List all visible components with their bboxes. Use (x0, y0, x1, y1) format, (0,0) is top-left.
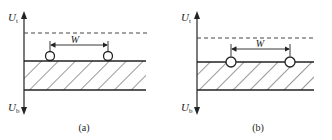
circle-left (46, 52, 55, 61)
axis-down-arrow-icon (194, 107, 200, 115)
axis-top-label: Ut (181, 11, 191, 25)
axis-up-arrow-icon (21, 11, 27, 19)
axis-down-arrow-icon (21, 107, 27, 115)
panel-a: Ut Ub W (a) (8, 11, 148, 134)
panel-caption: (a) (78, 122, 89, 134)
width-label: W (71, 34, 81, 45)
panel-caption: (b) (252, 122, 264, 134)
circle-right (104, 52, 113, 61)
diagram-canvas: Ut Ub W (a) Ut Ub W (b) (0, 0, 332, 140)
width-label: W (256, 38, 266, 49)
axis-top-label: Ut (8, 11, 18, 25)
axis-up-arrow-icon (194, 11, 200, 19)
axis-bottom-label: Ub (181, 101, 193, 115)
hatched-band (197, 62, 314, 90)
hatched-band (24, 61, 146, 90)
panel-b: Ut Ub W (b) (181, 11, 316, 134)
circle-left (226, 57, 236, 67)
circle-right (285, 57, 295, 67)
axis-bottom-label: Ub (8, 101, 20, 115)
